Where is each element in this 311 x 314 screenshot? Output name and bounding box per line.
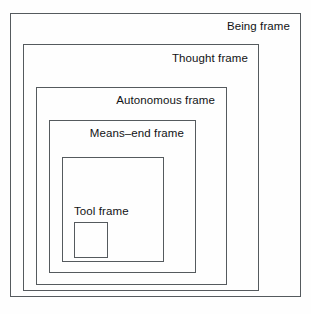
frame-being: Being frame Thought frame Autonomous fra… [10, 13, 301, 297]
frame-label-autonomous: Autonomous frame [116, 94, 215, 107]
nested-frames-diagram: Being frame Thought frame Autonomous fra… [0, 0, 311, 314]
frame-autonomous: Autonomous frame Means–end frame Tool fr… [36, 87, 227, 285]
frame-thought: Thought frame Autonomous frame Means–end… [23, 44, 259, 291]
frame-label-thought: Thought frame [172, 52, 248, 65]
frame-tool: Tool frame [62, 157, 164, 262]
frame-means-end: Means–end frame Tool frame [49, 120, 196, 273]
frame-label-being: Being frame [227, 20, 290, 33]
frame-innermost [74, 222, 108, 258]
frame-label-means-end: Means–end frame [90, 127, 184, 140]
frame-label-tool: Tool frame [74, 205, 129, 218]
